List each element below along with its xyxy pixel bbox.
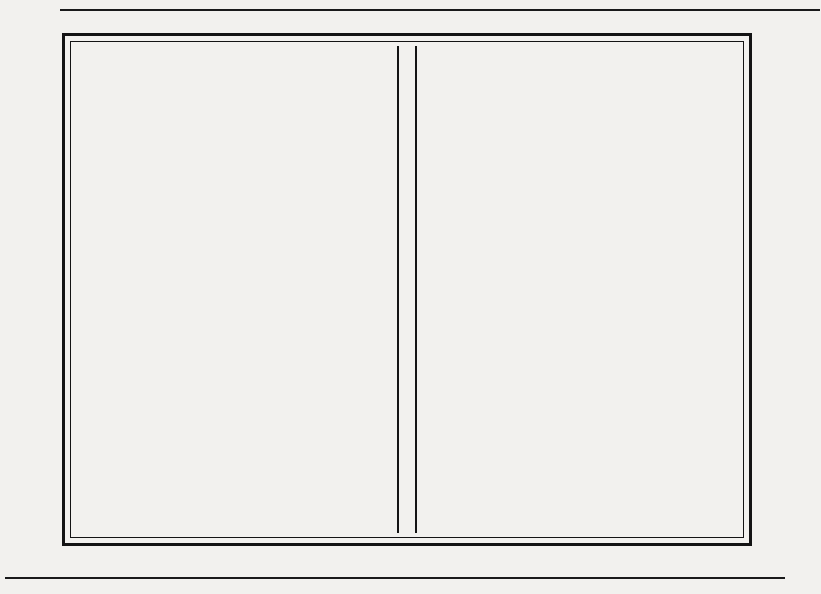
- bottom-rule: [5, 577, 785, 579]
- playfield: [75, 46, 739, 533]
- center-bar[interactable]: [397, 46, 417, 533]
- quadrant-black-inner-table: [417, 46, 739, 290]
- board-inner-frame: [70, 41, 744, 538]
- diagram-page: [0, 0, 821, 594]
- board-outer-frame: [62, 33, 752, 546]
- point-numbers-bottom: [60, 549, 820, 567]
- quadrant-black-outer-table: [75, 46, 397, 290]
- quadrant-white-outer-table: [75, 290, 397, 534]
- point-numbers-top: [60, 14, 820, 32]
- top-rule: [60, 9, 820, 11]
- quadrant-white-inner-table: [417, 290, 739, 534]
